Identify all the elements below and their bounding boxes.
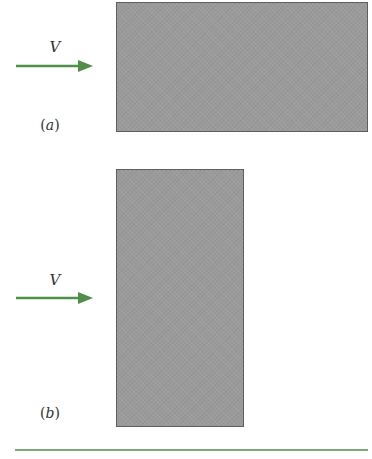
arrowhead-icon: [78, 60, 93, 72]
panel-caption-a: (a): [30, 117, 70, 133]
caption-close-paren: ): [54, 117, 59, 133]
plate-horizontal: [116, 2, 368, 132]
velocity-arrow-b: [16, 292, 93, 304]
arrowhead-icon: [78, 292, 93, 304]
panel-caption-b: (b): [30, 405, 70, 421]
caption-close-paren: ): [54, 405, 59, 421]
velocity-label-b: V: [40, 271, 70, 289]
caption-letter: a: [46, 117, 54, 133]
velocity-label-a: V: [40, 38, 70, 56]
velocity-arrow-a: [16, 60, 93, 72]
plate-vertical: [116, 169, 244, 427]
